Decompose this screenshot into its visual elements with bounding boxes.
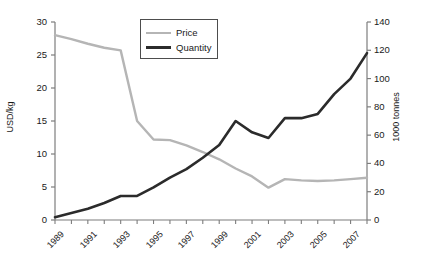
right-axis-tick-label: 120: [374, 45, 404, 55]
legend-item-price: Price: [146, 25, 213, 40]
dual-axis-line-chart: USD/kg 1000 tonnes 051015202530 02040608…: [0, 0, 429, 267]
right-axis-tick-label: 0: [374, 215, 404, 225]
right-axis-tick-label: 100: [374, 74, 404, 84]
left-axis-tick-label: 10: [21, 149, 47, 159]
left-axis-tick-label: 5: [21, 182, 47, 192]
legend-item-quantity: Quantity: [146, 40, 213, 55]
legend-label-price: Price: [176, 28, 198, 38]
left-axis-tick-label: 20: [21, 83, 47, 93]
left-axis-tick-label: 15: [21, 116, 47, 126]
legend-line-swatch-price: [146, 32, 171, 34]
legend-label-quantity: Quantity: [176, 43, 211, 53]
left-axis-tick-label: 0: [21, 215, 47, 225]
left-axis-tick-label: 30: [21, 17, 47, 27]
series-line-quantity: [55, 53, 367, 217]
right-axis-tick-label: 80: [374, 102, 404, 112]
legend-line-swatch-quantity: [146, 46, 171, 49]
chart-legend: Price Quantity: [140, 19, 218, 59]
left-axis-tick-label: 25: [21, 50, 47, 60]
right-axis-tick-label: 60: [374, 130, 404, 140]
right-axis-tick-label: 20: [374, 187, 404, 197]
right-axis-tick-label: 140: [374, 17, 404, 27]
right-axis-tick-label: 40: [374, 158, 404, 168]
